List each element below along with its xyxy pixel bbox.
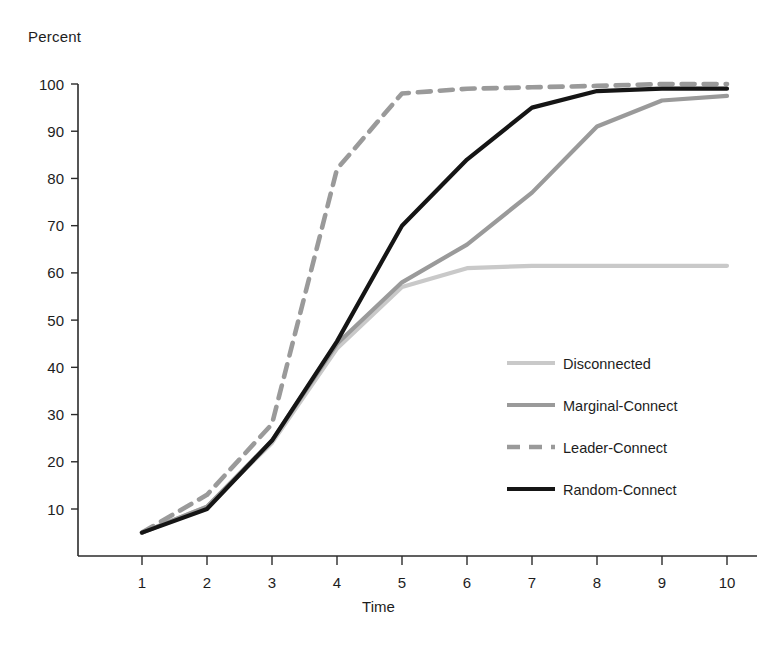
x-tick-label: 6 bbox=[463, 574, 471, 591]
x-axis-tick-group: 12345678910 bbox=[138, 556, 736, 591]
legend-label-marginal-connect: Marginal-Connect bbox=[563, 398, 677, 414]
x-tick-label: 4 bbox=[333, 574, 341, 591]
x-tick-label: 10 bbox=[719, 574, 736, 591]
x-tick-label: 2 bbox=[203, 574, 211, 591]
x-tick-label: 1 bbox=[138, 574, 146, 591]
chart-figure: Percent Time 102030405060708090100 12345… bbox=[0, 0, 757, 653]
y-tick-label: 100 bbox=[39, 76, 64, 93]
y-tick-label: 40 bbox=[47, 359, 64, 376]
series-line-random-connect bbox=[142, 89, 727, 533]
x-tick-label: 8 bbox=[593, 574, 601, 591]
x-tick-label: 5 bbox=[398, 574, 406, 591]
y-tick-label: 90 bbox=[47, 123, 64, 140]
legend-label-random-connect: Random-Connect bbox=[563, 482, 677, 498]
line-chart-plot: 102030405060708090100 12345678910 Discon… bbox=[0, 0, 757, 653]
y-tick-label: 20 bbox=[47, 453, 64, 470]
y-tick-label: 30 bbox=[47, 406, 64, 423]
series-group bbox=[142, 84, 727, 533]
series-line-leader-connect bbox=[142, 84, 727, 533]
y-tick-label: 60 bbox=[47, 264, 64, 281]
legend-label-disconnected: Disconnected bbox=[563, 356, 651, 372]
x-tick-label: 3 bbox=[268, 574, 276, 591]
y-tick-label: 80 bbox=[47, 170, 64, 187]
x-tick-label: 7 bbox=[528, 574, 536, 591]
legend-label-leader-connect: Leader-Connect bbox=[563, 440, 667, 456]
x-tick-label: 9 bbox=[658, 574, 666, 591]
y-tick-label: 10 bbox=[47, 501, 64, 518]
y-tick-label: 50 bbox=[47, 312, 64, 329]
chart-legend: DisconnectedMarginal-ConnectLeader-Conne… bbox=[507, 356, 677, 498]
y-axis-tick-group: 102030405060708090100 bbox=[39, 76, 78, 518]
y-tick-label: 70 bbox=[47, 217, 64, 234]
